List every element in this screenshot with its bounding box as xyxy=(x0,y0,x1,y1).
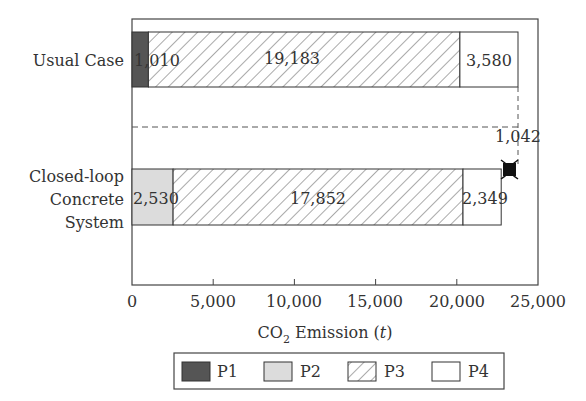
x-tick-label: 5,000 xyxy=(190,292,236,311)
legend: P1 P2 P3 P4 xyxy=(174,353,504,389)
legend-label-p2: P2 xyxy=(300,362,321,381)
category-label-closed-loop: System xyxy=(65,213,124,232)
x-axis-title: CO2 Emission (t) xyxy=(258,323,393,346)
x-tick-label: 10,000 xyxy=(266,292,322,311)
difference-label: 1,042 xyxy=(495,127,541,146)
category-label-closed-loop: Concrete xyxy=(50,190,124,209)
value-label: 3,580 xyxy=(466,51,512,70)
legend-swatch-p4 xyxy=(432,362,460,381)
bar-usual-case xyxy=(132,32,518,87)
x-tick-label: 20,000 xyxy=(429,292,485,311)
category-label-usual-case: Usual Case xyxy=(33,51,124,70)
stacked-bar-chart: 1,010 19,183 3,580 2,530 17,852 2,349 1,… xyxy=(0,0,586,401)
value-label: 17,852 xyxy=(290,189,346,208)
category-label-closed-loop: Closed-loop xyxy=(29,167,124,186)
x-tick-label: 15,000 xyxy=(347,292,403,311)
value-label: 1,010 xyxy=(134,51,180,70)
value-label: 2,349 xyxy=(462,189,508,208)
x-tick-label: 0 xyxy=(127,292,137,311)
value-label: 2,530 xyxy=(133,189,179,208)
legend-swatch-p1 xyxy=(182,362,210,381)
x-tick-label: 25,000 xyxy=(510,292,566,311)
difference-arrow-icon xyxy=(501,160,518,179)
legend-label-p4: P4 xyxy=(468,362,489,381)
legend-label-p3: P3 xyxy=(384,362,405,381)
legend-label-p1: P1 xyxy=(217,362,238,381)
legend-swatch-p2 xyxy=(264,362,292,381)
x-axis xyxy=(213,279,457,285)
legend-swatch-p3 xyxy=(348,362,376,381)
value-label: 19,183 xyxy=(264,49,320,68)
